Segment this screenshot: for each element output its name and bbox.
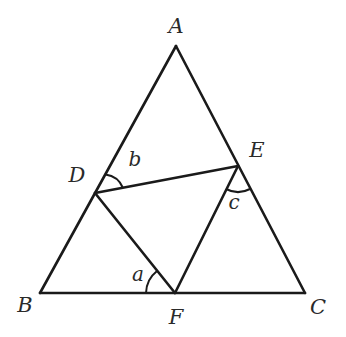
geometry-diagram: A B C D E F b c a [0,0,346,337]
angle-label-a: a [132,262,144,286]
segment-CA [176,46,305,293]
angle-arc-b [106,175,124,189]
segment-EF [175,166,238,293]
segment-AB [40,46,176,293]
label-C: C [310,295,326,319]
label-A: A [166,14,183,38]
label-E: E [248,138,264,162]
label-D: D [68,163,86,187]
angle-label-c: c [228,190,239,214]
angle-arc-a [146,271,157,293]
label-B: B [16,293,32,317]
angle-label-b: b [129,147,142,171]
label-F: F [168,305,185,329]
